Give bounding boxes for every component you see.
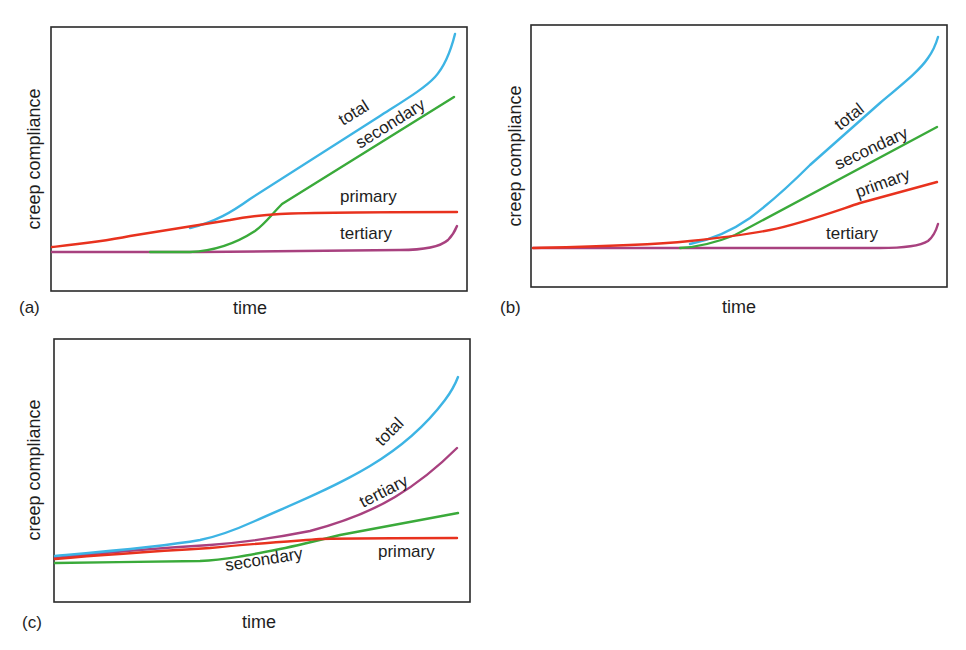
x-axis-label: time bbox=[722, 297, 756, 317]
panel-tag: (b) bbox=[500, 298, 521, 317]
y-axis-label: creep compliance bbox=[505, 85, 525, 226]
x-axis-label: time bbox=[233, 298, 267, 318]
figure-canvas: creep compliance time (a) total secondar… bbox=[0, 0, 966, 650]
label-tertiary: tertiary bbox=[356, 471, 411, 512]
panel-tag: (a) bbox=[19, 298, 40, 317]
x-axis-label: time bbox=[242, 612, 276, 632]
y-axis-label: creep compliance bbox=[24, 399, 44, 540]
panel-c: creep compliance time (c) total tertiary… bbox=[22, 339, 470, 632]
y-axis-label: creep compliance bbox=[24, 88, 44, 229]
curve-primary bbox=[52, 212, 457, 247]
curve-total bbox=[55, 377, 458, 556]
curve-total bbox=[190, 34, 455, 228]
label-primary: primary bbox=[340, 187, 397, 206]
panel-tag: (c) bbox=[22, 613, 42, 632]
label-secondary: secondary bbox=[224, 544, 305, 575]
label-tertiary: tertiary bbox=[826, 224, 878, 243]
panel-a: creep compliance time (a) total secondar… bbox=[19, 27, 467, 318]
label-primary: primary bbox=[378, 542, 435, 561]
panel-b: creep compliance time (b) total secondar… bbox=[500, 25, 947, 317]
label-tertiary: tertiary bbox=[340, 224, 392, 243]
